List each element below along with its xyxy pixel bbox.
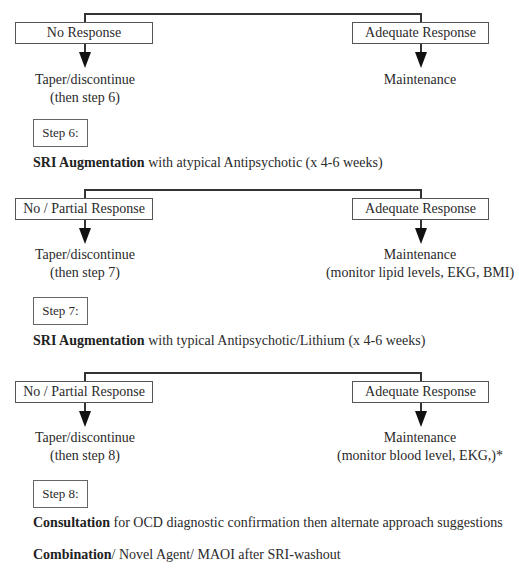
partial-response-box: No / Partial Response [15, 381, 153, 403]
step-6-description: SRI Augmentation with atypical Antipsych… [33, 155, 383, 171]
step-7-title: SRI Augmentation [33, 333, 145, 348]
arrow-down-icon [79, 411, 91, 427]
step-8-text: for OCD diagnostic confirmation then alt… [110, 515, 503, 530]
arrow-down-icon [415, 52, 427, 68]
no-response-box: No Response [15, 22, 153, 44]
outcome-line: (monitor blood level, EKG,)* [320, 447, 519, 465]
outcome-line: (then step 8) [0, 447, 170, 465]
outcome-line: Taper/discontinue [0, 429, 170, 447]
step-8-description: Consultation for OCD diagnostic confirma… [33, 515, 503, 531]
step-8-title: Consultation [33, 515, 110, 530]
arrow-down-icon [415, 228, 427, 244]
combination-description: Combination/ Novel Agent/ MAOI after SRI… [33, 547, 341, 563]
outcome-line: Maintenance [320, 246, 519, 264]
outcome-line: Taper/discontinue [0, 246, 170, 264]
outcome-line: Taper/discontinue [0, 71, 170, 89]
arrow-down-icon [79, 228, 91, 244]
outcome-line: (then step 6) [0, 89, 170, 107]
outcome-line: (then step 7) [0, 264, 170, 282]
taper-outcome: Taper/discontinue (then step 7) [0, 246, 170, 282]
step-7-text: with typical Antipsychotic/Lithium (x 4-… [145, 333, 426, 348]
adequate-response-box: Adequate Response [352, 381, 489, 403]
arrow-down-icon [415, 411, 427, 427]
adequate-response-box: Adequate Response [352, 198, 489, 220]
step-6-box: Step 6: [33, 119, 88, 147]
combination-text: / Novel Agent/ MAOI after SRI-washout [112, 547, 341, 562]
maintenance-outcome: Maintenance (monitor lipid levels, EKG, … [320, 246, 519, 282]
maintenance-outcome: Maintenance [320, 71, 519, 89]
arrow-down-icon [79, 52, 91, 68]
connector-line [84, 189, 422, 191]
outcome-line: Maintenance [320, 429, 519, 447]
connector-line [84, 13, 422, 15]
step-6-title: SRI Augmentation [33, 155, 145, 170]
step-6-text: with atypical Antipsychotic (x 4-6 weeks… [145, 155, 383, 170]
taper-outcome: Taper/discontinue (then step 6) [0, 71, 170, 107]
outcome-line: Maintenance [320, 71, 519, 89]
combination-title: Combination [33, 547, 112, 562]
outcome-line: (monitor lipid levels, EKG, BMI) [320, 264, 519, 282]
partial-response-box: No / Partial Response [15, 198, 153, 220]
connector-line [84, 372, 422, 374]
step-8-box: Step 8: [33, 480, 88, 508]
taper-outcome: Taper/discontinue (then step 8) [0, 429, 170, 465]
step-7-box: Step 7: [33, 297, 88, 325]
step-7-description: SRI Augmentation with typical Antipsycho… [33, 333, 425, 349]
adequate-response-box: Adequate Response [352, 22, 489, 44]
maintenance-outcome: Maintenance (monitor blood level, EKG,)* [320, 429, 519, 465]
